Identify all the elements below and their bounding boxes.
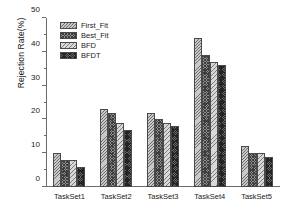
y-tick-label: 20 [31, 106, 40, 115]
bar [194, 38, 202, 187]
legend-swatch [60, 22, 77, 29]
legend-item: Best_Fit [60, 31, 109, 40]
y-tick-label: 40 [31, 38, 40, 47]
bar [202, 55, 210, 187]
y-tick-label: 0 [36, 174, 40, 183]
legend-label: BFDT [81, 51, 101, 60]
bar [257, 153, 265, 187]
bar [210, 62, 218, 187]
bar-group: TaskSet5 [233, 18, 280, 187]
x-tick-label: TaskSet1 [54, 192, 85, 201]
chart-legend: First_FitBest_FitBFDBFDT [58, 20, 111, 61]
bar [155, 119, 163, 187]
bar [171, 126, 179, 187]
bar [163, 123, 171, 187]
bar-group: TaskSet4 [186, 18, 233, 187]
bar [69, 160, 77, 187]
bar [61, 160, 69, 187]
legend-swatch [60, 42, 77, 49]
legend-item: BFD [60, 41, 109, 50]
rejection-rate-bar-chart: Rejection Rate(%) 01020304050 TaskSet1Ta… [0, 0, 288, 210]
bar [218, 65, 226, 187]
x-tick-label: TaskSet5 [241, 192, 272, 201]
legend-swatch [60, 32, 77, 39]
legend-swatch [60, 52, 77, 59]
y-tick-label: 10 [31, 140, 40, 149]
bar [100, 109, 108, 187]
x-tick-label: TaskSet4 [194, 192, 225, 201]
bar [108, 113, 116, 187]
bar [116, 123, 124, 187]
legend-label: BFD [81, 41, 96, 50]
y-tick-label: 30 [31, 72, 40, 81]
bar [249, 153, 257, 187]
legend-label: First_Fit [81, 21, 108, 30]
legend-label: Best_Fit [81, 31, 109, 40]
bar [124, 130, 132, 187]
bar [77, 167, 85, 187]
bar-group: TaskSet3 [140, 18, 187, 187]
x-tick-label: TaskSet3 [148, 192, 179, 201]
y-tick-label: 50 [31, 5, 40, 14]
bar [147, 113, 155, 187]
legend-item: First_Fit [60, 21, 109, 30]
bar [241, 146, 249, 187]
bar [265, 157, 273, 187]
y-axis-label: Rejection Rate(%) [16, 0, 26, 118]
bar [53, 153, 61, 187]
legend-item: BFDT [60, 51, 109, 60]
x-tick-label: TaskSet2 [101, 192, 132, 201]
